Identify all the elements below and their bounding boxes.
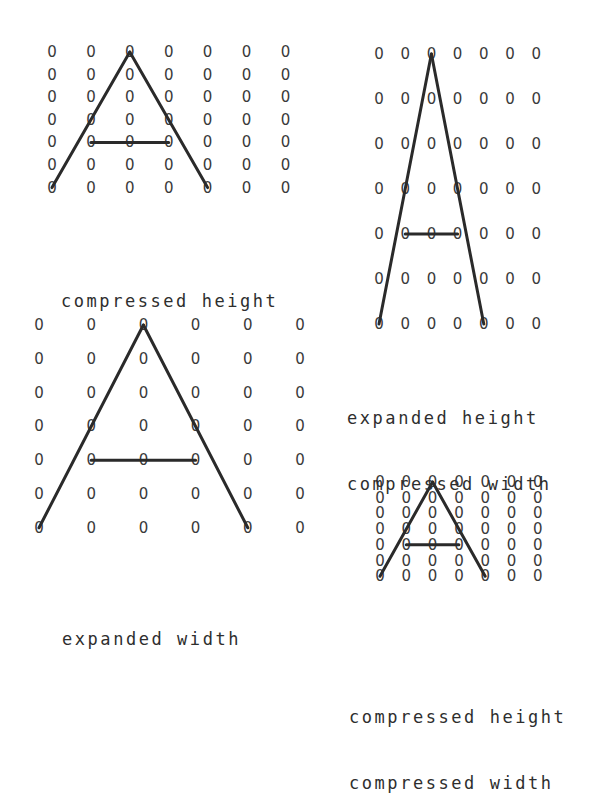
grid-zero: 0 <box>479 225 489 243</box>
grid-zero: 0 <box>47 111 57 129</box>
grid-zero: 0 <box>295 417 305 435</box>
grid-zero: 0 <box>47 88 57 106</box>
grid-zero: 0 <box>47 66 57 84</box>
grid-zero: 0 <box>531 180 541 198</box>
grid-zero: 0 <box>281 88 291 106</box>
grid-zero: 0 <box>533 567 543 585</box>
grid-zero: 0 <box>505 270 515 288</box>
caption-line: compressed width <box>349 772 566 794</box>
grid-zero: 0 <box>505 45 515 63</box>
grid-zero: 0 <box>242 43 252 61</box>
grid-zero: 0 <box>34 417 44 435</box>
grid-zero: 0 <box>243 417 253 435</box>
grid-zero: 0 <box>479 90 489 108</box>
grid-zero: 0 <box>374 270 384 288</box>
grid-zero: 0 <box>531 225 541 243</box>
grid-zero: 0 <box>86 179 96 197</box>
grid-zero: 0 <box>86 88 96 106</box>
caption-expanded-height-compressed-width: expanded height compressed width <box>347 363 552 517</box>
grid-zero: 0 <box>86 485 96 503</box>
grid-zero: 0 <box>139 485 149 503</box>
grid-zero: 0 <box>400 270 410 288</box>
grid-zero: 0 <box>531 90 541 108</box>
grid-zero: 0 <box>281 66 291 84</box>
grid-zero: 0 <box>164 43 174 61</box>
grid-zero: 0 <box>242 88 252 106</box>
grid-zero: 0 <box>428 567 438 585</box>
panel-expanded-height-compressed-width: 0000000000000000000000000000000000000000… <box>374 45 541 333</box>
grid-zero: 0 <box>531 45 541 63</box>
grid-zero: 0 <box>400 315 410 333</box>
grid-zero: 0 <box>505 225 515 243</box>
grid-zero: 0 <box>86 350 96 368</box>
grid-zero: 0 <box>295 519 305 537</box>
grid-zero: 0 <box>164 156 174 174</box>
grid-zero: 0 <box>34 485 44 503</box>
grid-zero: 0 <box>507 567 517 585</box>
panel-compressed-height: 0000000000000000000000000000000000000000… <box>47 43 290 197</box>
grid-zero: 0 <box>374 135 384 153</box>
grid-zero: 0 <box>374 225 384 243</box>
grid-zero: 0 <box>427 270 437 288</box>
grid-zero: 0 <box>203 111 213 129</box>
grid-zero: 0 <box>34 451 44 469</box>
grid-zero: 0 <box>242 179 252 197</box>
grid-zero: 0 <box>125 66 135 84</box>
caption-line: expanded height <box>347 407 552 429</box>
grid-zero: 0 <box>427 315 437 333</box>
grid-zero: 0 <box>164 179 174 197</box>
grid-zero: 0 <box>479 45 489 63</box>
grid-zero: 0 <box>281 179 291 197</box>
grid-zero: 0 <box>295 384 305 402</box>
grid-zero: 0 <box>454 567 464 585</box>
grid-zero: 0 <box>281 43 291 61</box>
grid-zero: 0 <box>243 485 253 503</box>
grid-zero: 0 <box>164 66 174 84</box>
caption-line: compressed height <box>349 706 566 728</box>
grid-zero: 0 <box>34 316 44 334</box>
grid-zero: 0 <box>243 384 253 402</box>
grid-zero: 0 <box>139 417 149 435</box>
grid-zero: 0 <box>203 66 213 84</box>
grid-zero: 0 <box>191 485 201 503</box>
grid-zero: 0 <box>86 384 96 402</box>
grid-zero: 0 <box>295 485 305 503</box>
grid-zero: 0 <box>203 133 213 151</box>
grid-zero: 0 <box>243 451 253 469</box>
grid-zero: 0 <box>243 350 253 368</box>
grid-zero: 0 <box>191 519 201 537</box>
grid-zero: 0 <box>86 43 96 61</box>
grid-zero: 0 <box>242 156 252 174</box>
grid-zero: 0 <box>479 180 489 198</box>
grid-zero: 0 <box>125 88 135 106</box>
grid-zero: 0 <box>453 270 463 288</box>
grid-zero: 0 <box>374 180 384 198</box>
grid-zero: 0 <box>86 156 96 174</box>
grid-zero: 0 <box>125 179 135 197</box>
grid-zero: 0 <box>242 66 252 84</box>
grid-zero: 0 <box>203 43 213 61</box>
grid-zero: 0 <box>139 350 149 368</box>
caption-line: expanded width <box>62 628 241 650</box>
grid-zero: 0 <box>281 111 291 129</box>
grid-zero: 0 <box>34 384 44 402</box>
grid-zero: 0 <box>400 90 410 108</box>
grid-zero: 0 <box>281 156 291 174</box>
panel-expanded-width: 0000000000000000000000000000000000000000… <box>34 316 305 537</box>
grid-zero: 0 <box>505 180 515 198</box>
caption-line: compressed height <box>61 290 278 312</box>
grid-zero: 0 <box>203 88 213 106</box>
grid-zero: 0 <box>242 133 252 151</box>
grid-zero: 0 <box>505 315 515 333</box>
caption-line: compressed width <box>347 473 552 495</box>
grid-zero: 0 <box>427 180 437 198</box>
grid-zero: 0 <box>374 90 384 108</box>
grid-zero: 0 <box>402 567 412 585</box>
grid-zero: 0 <box>139 519 149 537</box>
caption-compressed-height-compressed-width: compressed height compressed width <box>349 662 566 797</box>
grid-zero: 0 <box>531 270 541 288</box>
grid-zero: 0 <box>531 135 541 153</box>
grid-zero: 0 <box>453 45 463 63</box>
grid-zero: 0 <box>86 66 96 84</box>
grid-zero: 0 <box>400 45 410 63</box>
